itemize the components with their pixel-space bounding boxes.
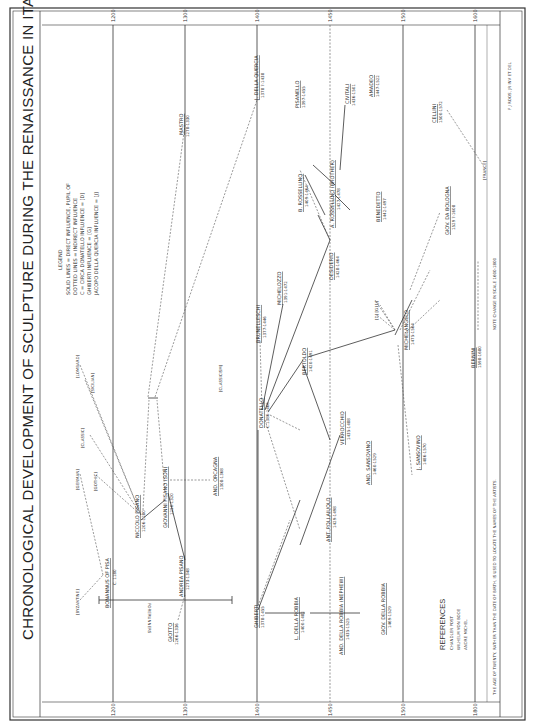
artist-michelangelo: MICHELANGELO 1475-1564 bbox=[403, 310, 415, 350]
artist-michelozzo: MICHELOZZO 1391-1472 bbox=[276, 271, 288, 305]
svg-text:1266-1336: 1266-1336 bbox=[174, 623, 179, 645]
svg-text:1469-1529: 1469-1529 bbox=[387, 606, 392, 628]
svg-text:AMADEO: AMADEO bbox=[368, 75, 374, 97]
artist-and-sansovino: AND. SANSOVINO 1460-1529 bbox=[365, 441, 377, 485]
svg-text:1486-1570: 1486-1570 bbox=[422, 443, 427, 465]
svg-text:GIOV. DA BOLOGNA: GIOV. DA BOLOGNA bbox=[444, 186, 450, 235]
svg-text:BONANNUS OF PISA: BONANNUS OF PISA bbox=[104, 558, 110, 608]
svg-text:CIVITALI: CIVITALI bbox=[344, 84, 350, 104]
svg-text:B. ROSSELLINO: B. ROSSELLINO bbox=[297, 174, 303, 212]
artist-j-sansovino: J. SANSOVINO 1486-1570 bbox=[415, 435, 427, 471]
diagram-canvas: CHRONOLOGICAL DEVELOPMENT OF SCULPTURE D… bbox=[0, 0, 533, 727]
influence-classic: [CLASSIC] bbox=[80, 428, 85, 448]
influence-gothic: [GOTHIC] bbox=[93, 472, 98, 491]
svg-text:CELLINI: CELLINI bbox=[431, 104, 437, 123]
svg-text:1200: 1200 bbox=[110, 9, 116, 22]
svg-text:L. DELLA ROBBIA: L. DELLA ROBBIA bbox=[293, 597, 299, 640]
artist-giov-da-bologna: GIOV. DA BOLOGNA 1529 ?-1608 bbox=[444, 186, 456, 235]
svg-text:1377-1446: 1377-1446 bbox=[262, 316, 267, 338]
svg-text:WILHELM VON BODE: WILHELM VON BODE bbox=[456, 608, 461, 650]
svg-text:J. SANSOVINO: J. SANSOVINO bbox=[415, 435, 421, 471]
svg-text:BERNINI: BERNINI bbox=[470, 348, 476, 369]
svg-text:ANT. POLLAIUOLO: ANT. POLLAIUOLO bbox=[325, 497, 331, 542]
svg-text:GIOV. DELLA ROBBIA: GIOV. DELLA ROBBIA bbox=[380, 582, 386, 635]
year-labels-bottom: 1200 1300 1400 1450 1500 1800 bbox=[110, 703, 478, 716]
footer-credit: F J ROOS, JR INV ET DEL bbox=[507, 62, 512, 110]
influence-dgj: [D] [G] [J] bbox=[374, 300, 379, 320]
forerunners-bracket: FORERUNNERS bbox=[99, 596, 232, 634]
svg-text:1273-1348: 1273-1348 bbox=[185, 568, 190, 590]
svg-text:BERTOLDO: BERTOLDO bbox=[301, 348, 307, 375]
svg-text:AND. SANSOVINO: AND. SANSOVINO bbox=[365, 441, 371, 485]
svg-text:1600: 1600 bbox=[472, 9, 478, 22]
artist-pisanello: PISANELLO 1397-1455 bbox=[294, 81, 306, 108]
artist-civitali: CIVITALI 1436-1501 bbox=[344, 84, 356, 106]
svg-text:1428-1464: 1428-1464 bbox=[335, 256, 340, 278]
legend-line: GHIBERTI INFLUENCE = [G] bbox=[86, 227, 92, 295]
svg-text:1391-1472: 1391-1472 bbox=[283, 281, 288, 303]
svg-text:1442-1497: 1442-1497 bbox=[382, 198, 387, 220]
svg-text:1436-1501: 1436-1501 bbox=[351, 84, 356, 106]
svg-text:1500-1572: 1500-1572 bbox=[438, 101, 443, 123]
svg-text:NICCOLO PISANO: NICCOLO PISANO bbox=[134, 495, 140, 538]
svg-text:GIOVANNI PISANO (SON): GIOVANNI PISANO (SON) bbox=[162, 466, 168, 528]
svg-text:1429-1498: 1429-1498 bbox=[332, 506, 337, 528]
references: REFERENCES CHANDLER POST WILHELM VON BOD… bbox=[438, 599, 468, 650]
influence-lombard: [LOMBARD] bbox=[75, 354, 80, 378]
svg-text:C. 1180: C. 1180 bbox=[112, 569, 117, 585]
legend-line: SOLID LINES = DIRECT INFLUENCE, PUPIL OF bbox=[65, 183, 71, 295]
svg-text:1598-1680: 1598-1680 bbox=[477, 346, 482, 368]
influence-sicilian: [SICILIAN] bbox=[90, 373, 95, 393]
svg-text:1200: 1200 bbox=[110, 703, 116, 716]
svg-text:CHANDLER POST: CHANDLER POST bbox=[449, 615, 454, 650]
svg-text:1420-1491: 1420-1491 bbox=[308, 350, 313, 372]
influence-german: [GERMAN] bbox=[75, 469, 80, 490]
legend-line: JACOPO DELLA QUERCIA INFLUENCE = [J] bbox=[93, 192, 99, 296]
svg-text:1529 ?-1608: 1529 ?-1608 bbox=[451, 204, 456, 230]
svg-text:J. DELLA QUERCIA: J. DELLA QUERCIA bbox=[253, 55, 259, 101]
artist-amadeo: AMADEO 1447-1522 bbox=[368, 75, 380, 97]
svg-text:GHIBERTI: GHIBERTI bbox=[253, 605, 259, 628]
svg-text:1450: 1450 bbox=[327, 703, 333, 716]
svg-text:C.1386-1466: C.1386-1466 bbox=[265, 402, 270, 428]
svg-text:MASTRO: MASTRO bbox=[178, 114, 184, 135]
svg-text:1500: 1500 bbox=[400, 9, 406, 22]
artist-donatello: DONATELLO C.1386-1466 bbox=[258, 398, 270, 428]
footer-note-scale: NOTE CHANGE IN SCALE 1600-1800 bbox=[492, 257, 497, 330]
svg-text:DONATELLO: DONATELLO bbox=[258, 398, 264, 428]
svg-text:AND. ORCAGNA: AND. ORCAGNA bbox=[212, 456, 218, 496]
svg-text:1250-1320: 1250-1320 bbox=[169, 493, 174, 515]
svg-text:ANDRE MICHEL: ANDRE MICHEL bbox=[463, 619, 468, 650]
svg-text:1400-1482: 1400-1482 bbox=[300, 611, 305, 633]
artist-mastro: MASTRO 1278-1330 bbox=[178, 114, 190, 137]
artist-giotto: GIOTTO 1266-1336 bbox=[167, 623, 179, 645]
legend-line: DOTTED LINES = INDIRECT INFLUENCE bbox=[72, 198, 78, 295]
artist-brunelleschi: BRUNELLESCHI 1377-1446 bbox=[255, 305, 267, 343]
artist-desiderio: DESIDERIO 1428-1464 bbox=[328, 252, 340, 280]
svg-text:VERROCCHIO: VERROCCHIO bbox=[339, 411, 345, 445]
references-heading: REFERENCES bbox=[438, 599, 447, 650]
svg-text:AND. DELLA ROBBIA (NEPHEW): AND. DELLA ROBBIA (NEPHEW) bbox=[338, 577, 344, 655]
svg-text:1500: 1500 bbox=[400, 703, 406, 716]
legend-heading: LEGEND bbox=[57, 249, 63, 270]
artist-orcagna: AND. ORCAGNA 1308-1368 bbox=[212, 456, 224, 496]
svg-text:DESIDERIO: DESIDERIO bbox=[328, 252, 334, 280]
artist-giov-della-robbia: GIOV. DELLA ROBBIA 1469-1529 bbox=[380, 582, 392, 635]
artist-bertoldo: BERTOLDO 1420-1491 bbox=[301, 348, 313, 375]
svg-text:1409-1464: 1409-1464 bbox=[304, 185, 309, 207]
artist-cellini: CELLINI 1500-1572 bbox=[431, 101, 443, 123]
artist-l-della-robbia: L. DELLA ROBBIA 1400-1482 bbox=[293, 597, 305, 640]
svg-text:PISANELLO: PISANELLO bbox=[294, 81, 300, 108]
svg-text:1278-1330: 1278-1330 bbox=[185, 115, 190, 137]
svg-text:1378-1455: 1378-1455 bbox=[260, 606, 265, 628]
svg-text:1460-1529: 1460-1529 bbox=[372, 453, 377, 475]
svg-text:1800: 1800 bbox=[472, 703, 478, 716]
svg-text:1447-1522: 1447-1522 bbox=[375, 75, 380, 97]
svg-text:ANDREA PISANO: ANDREA PISANO bbox=[178, 555, 184, 597]
svg-text:BRUNELLESCHI: BRUNELLESCHI bbox=[255, 305, 261, 343]
svg-text:1400: 1400 bbox=[254, 9, 260, 22]
svg-text:MICHELOZZO: MICHELOZZO bbox=[276, 271, 282, 305]
artist-verrocchio: VERROCCHIO 1435-1488 bbox=[339, 411, 351, 445]
artist-bonannus: BONANNUS OF PISA C. 1180 bbox=[104, 558, 117, 608]
svg-text:1475-1564: 1475-1564 bbox=[410, 323, 415, 345]
